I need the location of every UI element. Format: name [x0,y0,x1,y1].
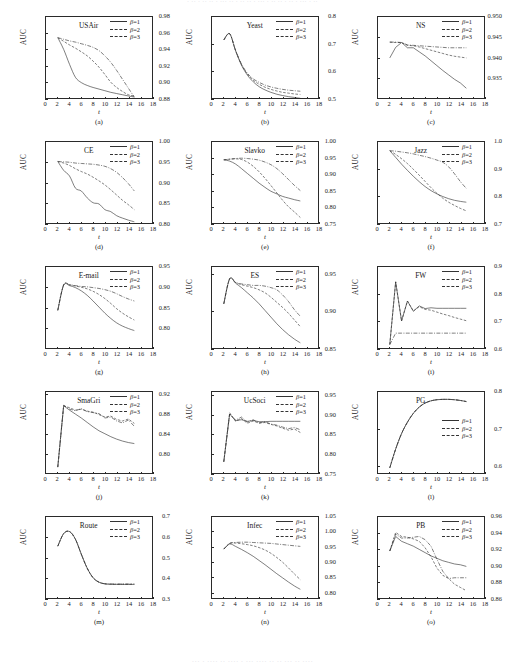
y-tick-mark [45,287,48,288]
x-tick-label: 18 [146,101,160,107]
y-axis-label: AUC [186,264,194,310]
x-tick-mark [295,472,296,475]
series-line-1 [390,536,467,566]
y-tick-mark [45,66,48,67]
legend: β=1β=2β=3 [276,143,306,166]
x-tick-mark [129,347,130,350]
y-axis-label: AUC [352,514,360,560]
x-tick-mark [45,597,46,600]
legend-label: β=1 [296,18,306,26]
x-tick-mark [319,222,320,225]
x-tick-mark [235,97,236,100]
x-tick-mark [295,97,296,100]
x-tick-mark [271,222,272,225]
legend: β=1β=2β=3 [110,518,140,541]
panel-m: AUC0.30.40.50.60.7024681012141618tRouteβ… [2,507,170,632]
legend-item-3: β=3 [110,533,140,541]
x-tick-mark [57,597,58,600]
legend-item-3: β=3 [276,283,306,291]
legend-label: β=2 [130,276,140,284]
y-tick-label: 0.80 [130,325,170,331]
legend: β=1β=2β=3 [110,18,140,41]
panel-caption: (l) [377,493,485,501]
y-axis-label: AUC [186,389,194,435]
legend-swatch-dashdot [276,534,293,539]
x-tick-mark [141,347,142,350]
x-tick-mark [401,347,402,350]
x-tick-mark [223,472,224,475]
y-tick-mark [211,311,214,312]
x-axis-label: t [45,358,153,366]
legend-label: β=1 [462,143,472,151]
x-tick-mark [141,597,142,600]
x-tick-mark [235,222,236,225]
y-tick-mark [377,516,380,517]
x-tick-mark [425,97,426,100]
legend-item-1: β=1 [276,393,306,401]
x-tick-mark [105,597,106,600]
x-axis-label: t [377,483,485,491]
y-tick-label: 0.85 [296,431,336,437]
legend-swatch-solid [442,144,459,149]
x-tick-mark [437,222,438,225]
y-tick-label: 0.92 [130,63,170,69]
y-tick-label: 0.8 [462,388,502,394]
panel-j: AUC0.800.840.880.92024681012141618tSmaGr… [2,382,170,507]
panel-row-3: AUC0.800.850.900.95024681012141618tE-mai… [0,257,505,382]
x-tick-mark [449,97,450,100]
legend-swatch-solid [110,144,127,149]
x-tick-mark [69,472,70,475]
legend: β=1β=2β=3 [276,18,306,41]
panel-caption: (n) [211,618,319,626]
y-axis-label: AUC [20,514,28,560]
x-tick-mark [389,222,390,225]
x-tick-mark [377,472,378,475]
x-tick-mark [223,597,224,600]
panel-d: AUC0.800.850.900.951.00024681012141618tC… [2,132,170,257]
legend-label: β=3 [130,283,140,291]
x-tick-mark [235,472,236,475]
legend-item-3: β=3 [442,432,472,440]
x-tick-mark [259,472,260,475]
legend-label: β=2 [296,401,306,409]
legend-item-2: β=2 [442,526,472,534]
y-tick-label: 0.80 [296,204,336,210]
y-tick-mark [45,141,48,142]
legend-swatch-solid [442,19,459,24]
legend: β=1β=2β=3 [442,518,472,541]
series-line-2 [58,161,135,209]
y-tick-label: 0.90 [296,308,336,314]
x-tick-mark [473,472,474,475]
x-tick-mark [93,597,94,600]
x-tick-mark [45,222,46,225]
x-tick-mark [211,347,212,350]
x-tick-mark [223,97,224,100]
legend-item-3: β=3 [110,283,140,291]
x-tick-mark [485,347,486,350]
y-tick-mark [377,582,380,583]
x-tick-mark [401,97,402,100]
x-axis-label: t [211,233,319,241]
cropped-caption-top: · ·· · ·· ·· · ··· ·· · ·· ·· · ··· · ··… [0,0,505,7]
panel-l: AUC0.60.70.8024681012141618tPGβ=1β=2β=3(… [334,382,502,507]
x-tick-mark [283,597,284,600]
panel-o: AUC0.860.880.900.920.940.960246810121416… [334,507,502,632]
y-tick-mark [211,274,214,275]
y-tick-label: 0.5 [130,555,170,561]
legend-swatch-solid [110,394,127,399]
x-tick-mark [319,597,320,600]
x-tick-mark [425,222,426,225]
y-tick-label: 0.92 [462,546,502,552]
x-tick-mark [141,472,142,475]
y-tick-mark [45,49,48,50]
panel-k: AUC0.750.800.850.900.95024681012141618tU… [168,382,336,507]
legend-swatch-dashed [276,152,293,157]
legend-label: β=1 [296,393,306,401]
series-line-3 [390,333,467,344]
x-axis-label: t [211,358,319,366]
x-tick-label: 18 [146,351,160,357]
x-tick-mark [295,222,296,225]
x-tick-mark [153,97,154,100]
x-tick-mark [413,97,414,100]
x-tick-mark [389,597,390,600]
